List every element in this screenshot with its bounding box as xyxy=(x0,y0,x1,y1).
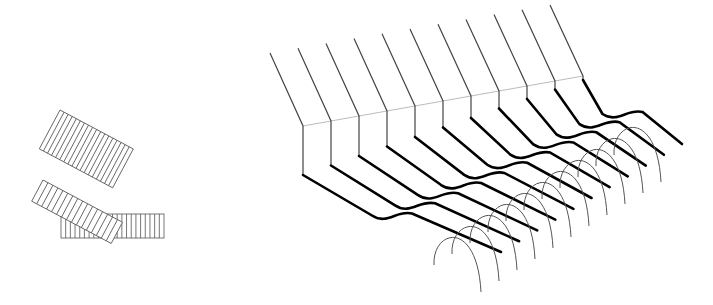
wire-lower-segment xyxy=(527,99,646,166)
wire-upper-segment xyxy=(522,10,555,90)
arch xyxy=(434,237,481,292)
wire-lower-segment xyxy=(499,109,628,177)
wire-lower-segment xyxy=(331,166,519,242)
left-ribbon-illustration xyxy=(32,110,164,243)
wire-illustration xyxy=(270,5,682,292)
wire-upper-segment xyxy=(270,53,303,175)
diagram-canvas xyxy=(0,0,713,305)
wire-upper-segment xyxy=(494,15,527,99)
top-ribbon xyxy=(39,110,133,188)
wire-lower-segment xyxy=(555,90,664,155)
wire-upper-segment xyxy=(550,5,583,80)
wire-lower-segment xyxy=(303,175,501,252)
